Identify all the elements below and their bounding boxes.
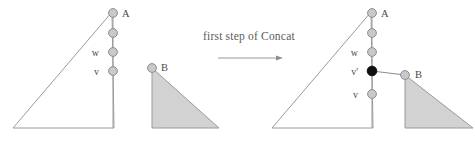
left-node-v (109, 67, 118, 76)
right-node-b (401, 71, 410, 80)
left-node-b (148, 64, 157, 73)
left-label-v: v (94, 66, 99, 77)
right-triangle-b-filled (405, 75, 473, 128)
right-panel-after-state: A w v' v B (272, 8, 473, 128)
left-node-a (109, 9, 118, 18)
right-node-w (368, 48, 377, 57)
left-panel-before-state: A w v B (13, 8, 219, 128)
concat-operation-diagram: A w v B (0, 0, 475, 142)
transition-arrow-group (218, 55, 283, 60)
right-label-a: A (381, 8, 389, 19)
right-node-vprime (367, 66, 377, 76)
left-triangle-b-filled (152, 68, 219, 128)
left-node-mid (109, 29, 118, 38)
right-label-vprime: v' (351, 66, 358, 77)
diagram-canvas: A w v B (0, 0, 475, 142)
left-label-a: A (122, 8, 130, 19)
right-label-v: v (353, 89, 358, 100)
left-label-w: w (92, 47, 100, 58)
transition-caption: first step of Concat (203, 30, 295, 42)
right-label-w: w (351, 47, 359, 58)
right-node-mid (368, 29, 377, 38)
right-label-b: B (415, 69, 422, 80)
right-node-a (368, 9, 377, 18)
transition-arrow-head (276, 55, 283, 60)
right-node-v (368, 90, 377, 99)
left-label-b: B (161, 62, 168, 73)
left-node-w (109, 48, 118, 57)
